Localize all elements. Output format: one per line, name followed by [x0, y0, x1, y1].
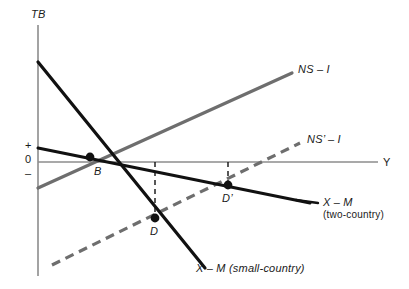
trade-balance-diagram: TB Y + 0 – NS – I NS’ – I X – M (two-cou… — [0, 0, 409, 289]
ns-minus-i-curve — [38, 73, 292, 188]
axis-label-y: Y — [383, 156, 391, 168]
x-minus-m-two-country-curve — [38, 148, 310, 203]
axis-tick-plus: + — [25, 139, 31, 151]
point-d-marker — [151, 214, 160, 223]
point-label-d: D — [150, 225, 158, 237]
axis-tick-minus: – — [25, 167, 31, 179]
x-minus-m-small-country-curve — [38, 62, 205, 268]
point-d-prime-marker — [224, 181, 233, 190]
curve-label-x-minus-m-two-country: X – M — [323, 196, 353, 208]
curve-label-ns-prime-minus-i: NS’ – I — [307, 133, 341, 145]
axis-label-tb: TB — [31, 8, 45, 20]
curve-label-ns-minus-i: NS – I — [298, 63, 330, 75]
diagram-canvas — [0, 0, 409, 289]
leader-xm-two-country — [296, 200, 318, 203]
curve-sublabel-two-country: (two-country) — [323, 209, 384, 220]
curve-label-x-minus-m-small-country: X – M (small-country) — [196, 262, 305, 274]
point-label-b: B — [94, 165, 102, 177]
point-label-d-prime: D’ — [222, 192, 233, 204]
axis-tick-zero: 0 — [25, 153, 31, 165]
point-b-marker — [86, 153, 95, 162]
